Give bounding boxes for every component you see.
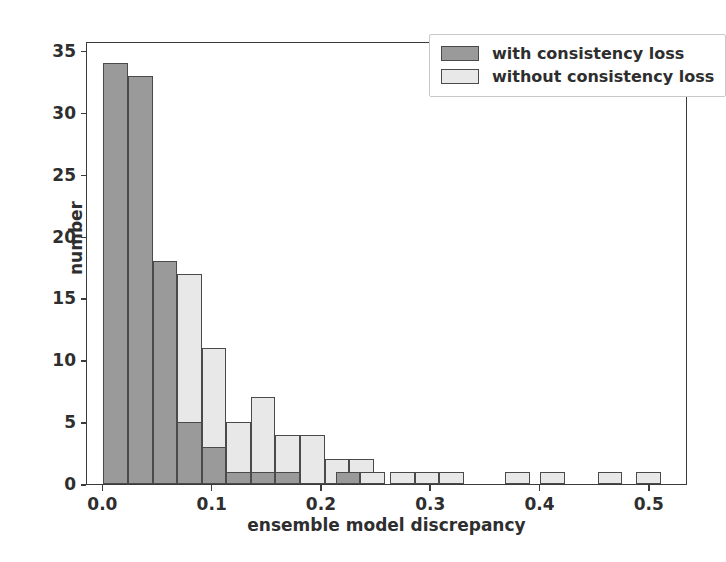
histogram-bar	[275, 472, 300, 484]
y-tick-label: 10	[52, 350, 76, 371]
histogram-bar	[505, 472, 530, 484]
legend-swatch	[441, 69, 479, 84]
histogram-bar	[415, 472, 440, 484]
x-tick-label: 0.1	[172, 494, 252, 514]
histogram-bar	[636, 472, 661, 484]
histogram-bar	[598, 472, 623, 484]
x-tick-mark	[211, 485, 213, 491]
x-tick-mark	[539, 485, 541, 491]
x-tick-label: 0.2	[281, 494, 361, 514]
x-tick-mark	[429, 485, 431, 491]
y-tick-label: 30	[52, 103, 76, 124]
legend-label: with consistency loss	[492, 44, 684, 63]
histogram-bar	[153, 261, 178, 484]
x-tick-mark	[102, 485, 104, 491]
y-axis-title: number	[66, 158, 86, 318]
x-tick-label: 0.4	[499, 494, 579, 514]
histogram-bar	[226, 472, 251, 484]
histogram-bar	[128, 76, 153, 484]
legend: with consistency losswithout consistency…	[429, 34, 726, 97]
histogram-bar	[103, 63, 128, 484]
plot-area	[86, 42, 687, 485]
x-tick-label: 0.0	[62, 494, 142, 514]
histogram-bar	[439, 472, 464, 484]
y-tick-label: 5	[64, 412, 76, 433]
x-tick-label: 0.5	[609, 494, 689, 514]
x-tick-label: 0.3	[390, 494, 470, 514]
histogram-bar	[300, 435, 325, 484]
legend-swatch	[441, 46, 479, 61]
x-axis-title: ensemble model discrepancy	[86, 515, 687, 535]
y-tick-label: 0	[64, 474, 76, 495]
histogram-bar	[390, 472, 415, 484]
histogram-bar	[360, 472, 385, 484]
y-tick-label: 35	[52, 41, 76, 62]
x-tick-mark	[320, 485, 322, 491]
histogram-bar	[202, 447, 227, 484]
histogram-bar	[177, 422, 202, 484]
x-tick-mark	[648, 485, 650, 491]
histogram-bar	[540, 472, 565, 484]
histogram-bar	[336, 472, 361, 484]
bars-layer	[87, 43, 686, 484]
legend-entry: with consistency loss	[441, 42, 714, 65]
legend-label: without consistency loss	[492, 67, 714, 86]
histogram-bar	[251, 472, 276, 484]
legend-entry: without consistency loss	[441, 65, 714, 88]
